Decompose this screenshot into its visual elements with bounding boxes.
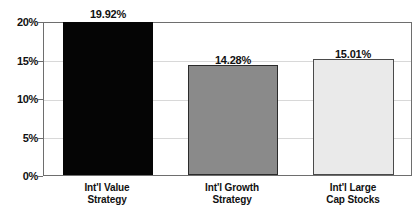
value-label-intl-large-cap-stocks: 15.01% <box>311 48 395 60</box>
category-label-intl-large-cap-stocks: Int'l Large Cap Stocks <box>294 182 412 206</box>
y-axis-tick-0: 0% <box>0 170 38 182</box>
value-label-intl-value-strategy: 19.92% <box>62 8 154 20</box>
y-axis-tick-mark-0 <box>38 176 43 177</box>
bar-intl-growth-strategy <box>188 65 278 175</box>
y-axis-tick-20: 20% <box>0 16 38 28</box>
category-label-line1: Int'l Value <box>84 182 129 193</box>
value-label-intl-growth-strategy: 14.28% <box>187 54 279 66</box>
bar-chart: 20% 15% 10% 5% 0% 19.92% 14.28% 15.01% I… <box>0 0 419 217</box>
y-axis-tick-10: 10% <box>0 93 38 105</box>
bar-intl-large-cap-stocks <box>313 59 394 175</box>
category-label-line2: Strategy <box>48 194 166 206</box>
y-axis-tick-15: 15% <box>0 55 38 67</box>
bar-intl-value-strategy <box>63 22 153 175</box>
category-label-intl-growth-strategy: Int'l Growth Strategy <box>173 182 291 206</box>
category-label-line1: Int'l Growth <box>205 182 259 193</box>
category-label-line1: Int'l Large <box>330 182 376 193</box>
category-label-line2: Strategy <box>173 194 291 206</box>
y-axis-tick-5: 5% <box>0 132 38 144</box>
category-label-line2: Cap Stocks <box>294 194 412 206</box>
category-label-intl-value-strategy: Int'l Value Strategy <box>48 182 166 206</box>
plot-area <box>43 22 412 176</box>
